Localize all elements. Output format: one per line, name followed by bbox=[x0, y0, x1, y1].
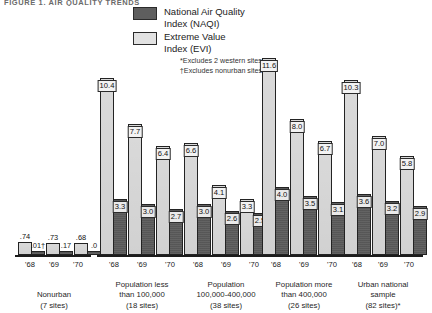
bar-value-label: 10.4 bbox=[98, 80, 117, 92]
bar-evi: 3.3 bbox=[240, 199, 254, 255]
bar-naqi: 3.2 bbox=[385, 201, 399, 255]
bar-evi: 6.4 bbox=[156, 146, 170, 255]
bar-pair: 7.73.0 bbox=[128, 124, 155, 255]
group-caption: Urban national sample (82 sites)* bbox=[330, 280, 432, 312]
bar-pair: 6.73.1 bbox=[318, 141, 345, 255]
axis-tick-label: '69 bbox=[128, 260, 156, 269]
bar-value-label: 3.3 bbox=[113, 201, 128, 213]
bar-value-label: 3.6 bbox=[357, 196, 372, 208]
axis-baseline bbox=[341, 255, 423, 257]
axis-baseline bbox=[181, 255, 269, 257]
bar-pair: 11.64.0 bbox=[262, 58, 289, 255]
bar-group-bars: 10.43.37.73.06.42.7 bbox=[100, 78, 184, 255]
bar-value-label: 6.4 bbox=[156, 148, 171, 160]
bar-value-label: 6.6 bbox=[184, 145, 199, 157]
axis-tick-label: '69 bbox=[370, 260, 396, 269]
bar-value-label: 6.7 bbox=[318, 143, 333, 155]
bar-evi: 7.0 bbox=[372, 136, 386, 255]
bar-value-label: 7.7 bbox=[128, 126, 143, 138]
bar-value-label: 3.2 bbox=[385, 203, 400, 215]
bar-naqi: 3.5 bbox=[303, 196, 317, 256]
bar-value-label: 3.0 bbox=[197, 206, 212, 218]
bar-evi: 11.6 bbox=[262, 58, 276, 255]
bar-value-label: 3.0 bbox=[141, 206, 156, 218]
axis-tick-label: '70 bbox=[156, 260, 184, 269]
bar-group-bars: 11.64.08.03.56.73.1 bbox=[262, 58, 346, 255]
bar-evi: 8.0 bbox=[290, 119, 304, 255]
bar-evi: 10.3 bbox=[344, 80, 358, 255]
axis-tick-label: '69 bbox=[42, 260, 66, 269]
bar-naqi: 2.7 bbox=[169, 209, 183, 255]
bar-evi: 6.6 bbox=[184, 143, 198, 255]
axis-tick-label: '70 bbox=[66, 260, 90, 269]
axis-baseline bbox=[15, 255, 91, 257]
bar-value-label: 5.8 bbox=[400, 158, 415, 170]
axis-tick-labels: '68'69'70 bbox=[184, 260, 268, 269]
axis-tick-label: '70 bbox=[318, 260, 346, 269]
bar-value-label: 2.9 bbox=[413, 208, 428, 220]
axis-tick-label: '69 bbox=[212, 260, 240, 269]
axis-tick-label: '68 bbox=[18, 260, 42, 269]
bar-pair: 10.43.3 bbox=[100, 78, 127, 255]
bar-naqi: 3.0 bbox=[141, 204, 155, 255]
bar-evi: 5.8 bbox=[400, 156, 414, 255]
axis-tick-labels: '68'69'70 bbox=[100, 260, 184, 269]
bar-group-bars: 6.63.04.12.63.32.5 bbox=[184, 143, 268, 255]
bar-naqi: 2.9 bbox=[413, 206, 427, 255]
bar-value-label: 2.6 bbox=[225, 213, 240, 225]
bar-value-label: .01† bbox=[31, 242, 45, 250]
bar-value-label: .68 bbox=[76, 234, 86, 242]
bar-pair: 8.03.5 bbox=[290, 119, 317, 255]
bar-pair: 6.63.0 bbox=[184, 143, 211, 255]
axis-tick-label: '68 bbox=[262, 260, 290, 269]
axis-tick-label: '70 bbox=[396, 260, 422, 269]
bar-naqi: 3.6 bbox=[357, 194, 371, 255]
bar-value-label: 4.1 bbox=[212, 187, 227, 199]
bar-naqi: 2.6 bbox=[225, 211, 239, 255]
bar-value-label: .74 bbox=[20, 233, 30, 241]
bar-pair: .73.17 bbox=[46, 243, 73, 255]
axis-tick-label: '68 bbox=[184, 260, 212, 269]
bar-pair: .68.0 bbox=[74, 243, 101, 255]
bar-value-label: 3.5 bbox=[303, 198, 318, 210]
axis-tick-labels: '68'69'70 bbox=[18, 260, 90, 269]
bar-pair: 10.33.6 bbox=[344, 80, 371, 255]
bar-pair: 5.82.9 bbox=[400, 156, 427, 255]
bar-naqi: 4.0 bbox=[275, 187, 289, 255]
bar-pair: 7.03.2 bbox=[372, 136, 399, 255]
bar-value-label: 8.0 bbox=[290, 121, 305, 133]
axis-baseline bbox=[259, 255, 347, 257]
bar-evi: .73 bbox=[46, 243, 60, 255]
axis-tick-label: '69 bbox=[290, 260, 318, 269]
bar-naqi: 3.0 bbox=[197, 204, 211, 255]
bar-value-label: 10.3 bbox=[342, 82, 361, 94]
axis-baseline bbox=[97, 255, 185, 257]
axis-tick-label: '68 bbox=[344, 260, 370, 269]
bar-value-label: .0 bbox=[91, 242, 97, 250]
bar-group-bars: .74.01†.73.17.68.0 bbox=[18, 242, 102, 255]
bar-value-label: 3.3 bbox=[240, 201, 255, 213]
bar-value-label: 7.0 bbox=[372, 138, 387, 150]
bar-value-label: .17 bbox=[61, 242, 71, 250]
bar-evi: 10.4 bbox=[100, 78, 114, 255]
bar-evi: 6.7 bbox=[318, 141, 332, 255]
axis-tick-label: '68 bbox=[100, 260, 128, 269]
axis-tick-labels: '68'69'70 bbox=[344, 260, 422, 269]
bar-pair: 4.12.6 bbox=[212, 185, 239, 255]
axis-tick-labels: '68'69'70 bbox=[262, 260, 346, 269]
bar-value-label: .73 bbox=[48, 234, 58, 242]
bar-naqi: 3.1 bbox=[331, 202, 345, 255]
bar-naqi: 3.3 bbox=[113, 199, 127, 255]
bar-value-label: 2.7 bbox=[169, 211, 184, 223]
bar-evi: .68 bbox=[74, 243, 88, 255]
bar-pair: .74.01† bbox=[18, 242, 45, 255]
bar-pair: 6.42.7 bbox=[156, 146, 183, 255]
bar-group-bars: 10.33.67.03.25.82.9 bbox=[344, 80, 428, 255]
bar-evi: 7.7 bbox=[128, 124, 142, 255]
bar-value-label: 4.0 bbox=[275, 189, 290, 201]
bar-value-label: 11.6 bbox=[260, 60, 278, 72]
